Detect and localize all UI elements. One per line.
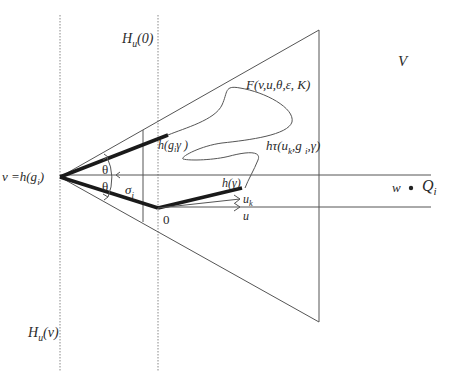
label-h-tau: hτ(uk,g i,γ) <box>266 139 320 156</box>
label-zero: 0 <box>163 213 170 226</box>
thick-segment-upper <box>60 135 168 177</box>
label-theta-lower: θ <box>102 180 108 193</box>
label-w: w <box>392 181 401 194</box>
label-vertex: v =h(gi) <box>2 170 44 187</box>
label-hg-gamma: h(giγ ) <box>158 139 188 155</box>
label-uk: uk <box>243 193 253 209</box>
label-sigma: σi <box>125 183 134 200</box>
arrow-icon-theta-lower <box>103 194 108 200</box>
thick-segment-gamma <box>158 188 242 208</box>
diagram-canvas <box>0 0 451 385</box>
label-V: V <box>398 54 407 69</box>
label-u: u <box>243 210 249 222</box>
label-h-gamma: h(γ) <box>222 177 241 189</box>
point-w <box>409 186 413 190</box>
label-F: F(v,u,θ,ε, K) <box>246 78 310 91</box>
label-theta-upper: θ <box>102 163 108 176</box>
label-hu-v: Hu(v) <box>28 326 59 343</box>
label-Q: Qi <box>422 178 437 197</box>
label-hu-0: Hu(0) <box>122 32 153 49</box>
